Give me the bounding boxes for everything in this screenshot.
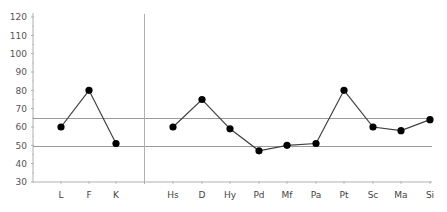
x-category-label: Pd: [253, 190, 264, 200]
y-tick-label: 100: [10, 49, 27, 59]
x-category-label: K: [113, 190, 120, 200]
data-point-marker: [340, 87, 347, 94]
series-line-validity: [61, 90, 116, 143]
series-line-clinical: [173, 90, 430, 150]
y-tick-label: 60: [16, 122, 28, 132]
x-category-label: Hs: [167, 190, 179, 200]
x-category-label: Si: [426, 190, 434, 200]
x-category-label: D: [199, 190, 206, 200]
data-point-marker: [169, 123, 176, 130]
x-category-label: Sc: [368, 190, 379, 200]
data-point-marker: [283, 142, 290, 149]
x-category-label: L: [58, 190, 63, 200]
y-axis: 30405060708090100110120: [10, 12, 34, 187]
x-category-label: Pa: [311, 190, 322, 200]
x-category-label: Mf: [282, 190, 294, 200]
y-tick-label: 120: [10, 12, 27, 22]
y-tick-label: 70: [16, 104, 28, 114]
mmpi-profile-chart: 30405060708090100110120 LFKHsDHyPdMfPaPt…: [0, 0, 447, 212]
x-category-label: Pt: [340, 190, 349, 200]
x-axis: LFKHsDHyPdMfPaPtScMaSi: [33, 181, 434, 200]
y-tick-label: 30: [16, 177, 28, 187]
y-tick-label: 90: [16, 67, 28, 77]
data-point-marker: [112, 140, 119, 147]
x-category-label: Hy: [224, 190, 237, 200]
y-tick-label: 110: [10, 31, 27, 41]
data-point-marker: [226, 125, 233, 132]
y-tick-label: 40: [16, 159, 28, 169]
data-point-marker: [85, 87, 92, 94]
x-category-label: F: [86, 190, 91, 200]
data-point-marker: [198, 96, 205, 103]
data-series: [57, 87, 433, 155]
data-point-marker: [312, 140, 319, 147]
x-category-label: Ma: [394, 190, 407, 200]
y-tick-label: 80: [16, 86, 28, 96]
data-point-marker: [426, 116, 433, 123]
reference-lines: [33, 119, 432, 147]
y-tick-label: 50: [16, 141, 28, 151]
data-point-marker: [255, 147, 262, 154]
data-point-marker: [369, 123, 376, 130]
data-point-marker: [57, 123, 64, 130]
data-point-marker: [397, 127, 404, 134]
